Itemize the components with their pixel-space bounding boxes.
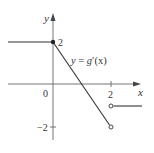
function-label-arg: ′(x) xyxy=(92,55,107,67)
y-axis-label: y xyxy=(43,12,49,24)
y-tick-label-neg2: −2 xyxy=(37,122,48,133)
origin-label: 0 xyxy=(43,88,48,99)
y-axis-arrow-icon xyxy=(51,13,56,21)
open-point-2-neg2 xyxy=(109,125,113,129)
y-tick-label-2: 2 xyxy=(58,37,63,48)
function-label-eq: = xyxy=(76,55,87,66)
filled-point-0-2 xyxy=(51,40,55,44)
open-point-2-neg1 xyxy=(109,104,113,108)
graph-of-g-prime: y x 0 2 −2 2 y = g′(x) xyxy=(0,0,154,153)
x-tick-label-2: 2 xyxy=(108,89,113,100)
axes xyxy=(8,18,136,140)
x-axis-label: x xyxy=(137,86,143,98)
function-label: y = g′(x) xyxy=(70,55,107,67)
